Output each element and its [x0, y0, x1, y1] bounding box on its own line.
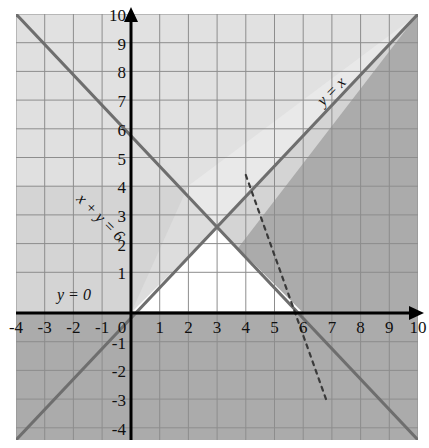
y-tick: 6 — [118, 121, 127, 140]
x-tick: -1 — [95, 318, 109, 337]
y-tick: -4 — [112, 420, 127, 439]
x-tick: -4 — [9, 318, 24, 337]
linear-programming-graph: -4 -3 -2 -1 0 1 2 3 4 5 6 7 8 9 10 10 9 … — [0, 0, 429, 448]
graph-canvas: -4 -3 -2 -1 0 1 2 3 4 5 6 7 8 9 10 10 9 … — [0, 0, 429, 448]
x-tick: -2 — [66, 318, 80, 337]
x-tick: 6 — [299, 318, 308, 337]
y-tick: 4 — [118, 178, 127, 197]
x-tick: 7 — [328, 318, 337, 337]
y-tick: 1 — [118, 264, 127, 283]
x-tick: 2 — [184, 318, 193, 337]
y-tick: -1 — [112, 334, 126, 353]
x-tick: 3 — [213, 318, 222, 337]
y-tick: 10 — [109, 6, 126, 25]
x-tick: 9 — [385, 318, 394, 337]
x-tick: 10 — [410, 318, 427, 337]
y-tick: 5 — [118, 150, 127, 169]
y-tick: 7 — [118, 92, 127, 111]
x-tick-labels: -4 -3 -2 -1 0 1 2 3 4 5 6 7 8 9 10 — [9, 318, 427, 337]
y-tick: 8 — [118, 63, 127, 82]
x-tick: 5 — [270, 318, 279, 337]
x-tick: 1 — [155, 318, 164, 337]
label-y-equals-0: y = 0 — [55, 286, 91, 304]
x-tick: 8 — [356, 318, 365, 337]
y-tick: -3 — [112, 391, 126, 410]
y-tick: -2 — [112, 362, 126, 381]
x-tick: 4 — [242, 318, 251, 337]
x-tick: -3 — [38, 318, 52, 337]
y-tick: 9 — [118, 35, 127, 54]
